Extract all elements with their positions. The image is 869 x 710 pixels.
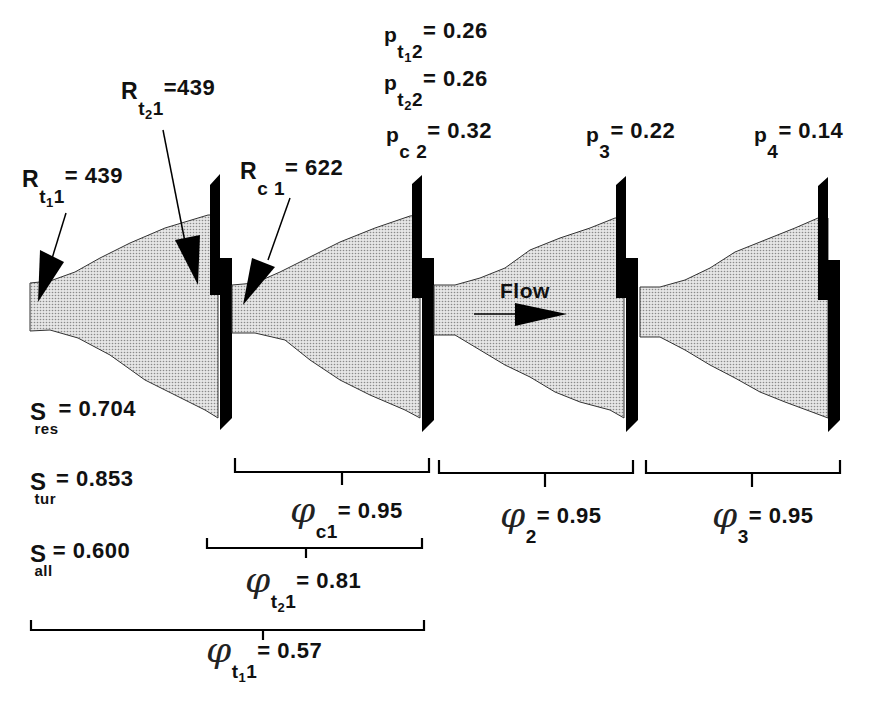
label-p-t2-2: pt22= 0.26: [384, 72, 488, 94]
label-s-res: Sres= 0.704: [30, 400, 136, 424]
label-p-3: p3= 0.22: [586, 124, 675, 146]
section-turbine-1: [30, 174, 232, 430]
section-4: [640, 177, 840, 432]
label-s-all: Sall= 0.600: [30, 542, 130, 566]
bracket-phi-c1: [235, 458, 429, 485]
label-phi-c1: φc1= 0.95: [290, 492, 403, 528]
label-r-t1-1: Rt11= 439: [22, 168, 123, 191]
flow-cone-2: [232, 215, 420, 418]
section-3: [434, 176, 638, 432]
flow-cone-4: [640, 218, 828, 418]
label-p-4: p4= 0.14: [754, 124, 843, 146]
bracket-phi-3: [646, 460, 840, 487]
label-phi-2: φ2= 0.95: [500, 497, 602, 533]
label-r-c1: Rc 1= 622: [240, 160, 343, 183]
flow-diagram: [0, 0, 869, 710]
section-compressor: [232, 175, 434, 432]
label-phi-t1-1: φt11= 0.57: [206, 632, 322, 668]
brackets: [31, 458, 840, 640]
bracket-phi-t21: [207, 538, 422, 558]
label-s-tur: Stur= 0.853: [30, 470, 134, 494]
bracket-phi-2: [439, 460, 633, 487]
label-phi-3: φ3= 0.95: [712, 497, 814, 533]
label-r-t2-1: Rt21=439: [121, 80, 215, 103]
label-p-t1-2: pt12= 0.26: [384, 24, 488, 46]
label-phi-t2-1: φt21= 0.81: [245, 562, 361, 598]
flow-label: Flow: [500, 280, 550, 301]
label-p-c2: pc 2= 0.32: [386, 124, 492, 146]
